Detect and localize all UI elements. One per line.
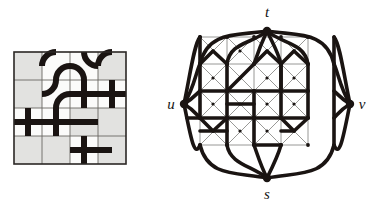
lattice-node — [225, 143, 229, 147]
lattice-node-center — [211, 49, 214, 52]
grid-cell — [14, 80, 42, 108]
lattice-node — [279, 116, 283, 120]
bold-step-left — [227, 91, 254, 104]
graph-panel: t u v s — [160, 0, 370, 215]
lattice-node-center — [238, 102, 241, 105]
lattice-node — [279, 35, 283, 39]
lattice-node-center — [238, 76, 241, 79]
lattice-node-center — [265, 49, 268, 52]
graph-svg: t u v s — [160, 0, 370, 215]
grid-tiling-svg — [0, 0, 185, 215]
lattice-node — [198, 89, 202, 93]
lattice-node-center — [292, 129, 295, 132]
vertex-u-dot[interactable] — [180, 100, 188, 108]
lattice-node — [252, 89, 256, 93]
lattice-node — [252, 35, 256, 39]
lattice-node — [198, 116, 202, 120]
vertex-s-label: s — [264, 186, 270, 202]
vertex-v-dot[interactable] — [346, 100, 354, 108]
grid-tiling-panel — [0, 0, 185, 215]
lattice-node-center — [211, 76, 214, 79]
lattice-node — [225, 116, 229, 120]
vertex-s-dot[interactable] — [263, 174, 271, 182]
bold-gadget-bl — [200, 118, 227, 131]
lattice-node — [279, 62, 283, 66]
lattice-node-center — [238, 49, 241, 52]
edge-s-5 — [267, 145, 334, 178]
lattice-node — [252, 116, 256, 120]
grid-cell — [42, 136, 70, 164]
lattice-node-center — [265, 102, 268, 105]
lattice-node — [225, 62, 229, 66]
lattice-node — [198, 62, 202, 66]
grid-cell — [14, 52, 42, 80]
lattice-node — [252, 62, 256, 66]
lattice-node-center — [211, 102, 214, 105]
lattice-node — [306, 89, 310, 93]
lattice-node — [306, 116, 310, 120]
figure-root: t u v s — [0, 0, 370, 215]
lattice-node-center — [265, 76, 268, 79]
lattice-node-center — [292, 49, 295, 52]
lattice-node — [306, 35, 310, 39]
vertex-t-label: t — [265, 4, 270, 20]
bold-gadget-br2 — [281, 118, 308, 131]
vertex-t-dot[interactable] — [263, 27, 271, 35]
lattice-node — [198, 143, 202, 147]
lattice-node-center — [238, 129, 241, 132]
vertex-v-label: v — [359, 96, 366, 112]
lattice-node-center — [292, 102, 295, 105]
lattice-node-center — [292, 76, 295, 79]
lattice-node — [279, 89, 283, 93]
lattice-node — [225, 35, 229, 39]
lattice-node-center — [211, 129, 214, 132]
grid-cell — [14, 136, 42, 164]
lattice-node — [225, 89, 229, 93]
lattice-node-center — [265, 129, 268, 132]
edge-s-4 — [267, 145, 281, 178]
lattice-node — [306, 143, 310, 147]
grid-cell — [98, 108, 126, 136]
lattice-node — [279, 143, 283, 147]
lattice-node — [306, 62, 310, 66]
lattice-node — [252, 143, 256, 147]
lattice-node — [198, 35, 202, 39]
vertex-u-label: u — [167, 96, 175, 112]
